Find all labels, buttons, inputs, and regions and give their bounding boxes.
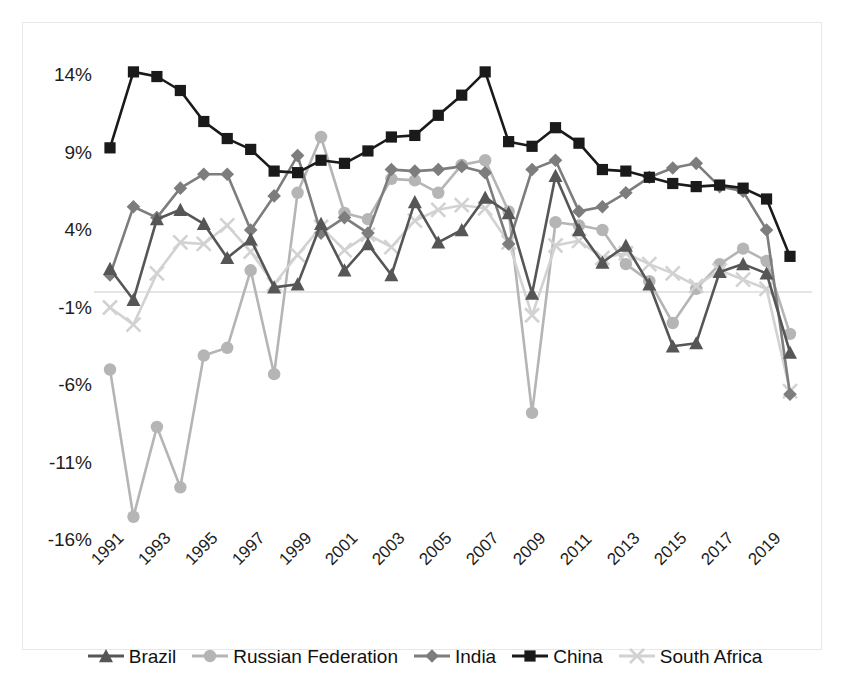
data-point-marker <box>204 650 216 662</box>
legend-item-brazil[interactable]: Brazil <box>86 646 177 666</box>
legend-label: Brazil <box>129 647 177 666</box>
legend-item-china[interactable]: China <box>510 646 603 666</box>
y-axis-tick-label: -6% <box>0 375 92 394</box>
legend-marker-circle-icon <box>190 646 230 666</box>
y-axis-tick-label: 4% <box>0 220 92 239</box>
legend-marker-diamond-icon <box>412 646 452 666</box>
legend-label: China <box>553 647 603 666</box>
legend-marker-cross-icon <box>617 646 657 666</box>
chart-legend: BrazilRussian FederationIndiaChinaSouth … <box>0 646 848 666</box>
y-axis-tick-label: -11% <box>0 453 92 472</box>
legend-label: Russian Federation <box>233 647 398 666</box>
legend-item-south-africa[interactable]: South Africa <box>617 646 762 666</box>
legend-marker-square-icon <box>510 646 550 666</box>
y-axis-tick-label: 9% <box>0 143 92 162</box>
data-point-marker <box>425 649 439 663</box>
legend-marker-triangle-icon <box>86 646 126 666</box>
legend-label: India <box>455 647 496 666</box>
y-axis-tick-label: 14% <box>0 65 92 84</box>
data-point-marker <box>525 650 536 661</box>
chart-container: 14%9%4%-1%-6%-11%-16% 199119931995199719… <box>0 0 848 696</box>
legend-item-india[interactable]: India <box>412 646 496 666</box>
legend-label: South Africa <box>660 647 762 666</box>
y-axis-tick-label: -1% <box>0 298 92 317</box>
y-axis-tick-label: -16% <box>0 530 92 549</box>
legend-item-russian-federation[interactable]: Russian Federation <box>190 646 398 666</box>
